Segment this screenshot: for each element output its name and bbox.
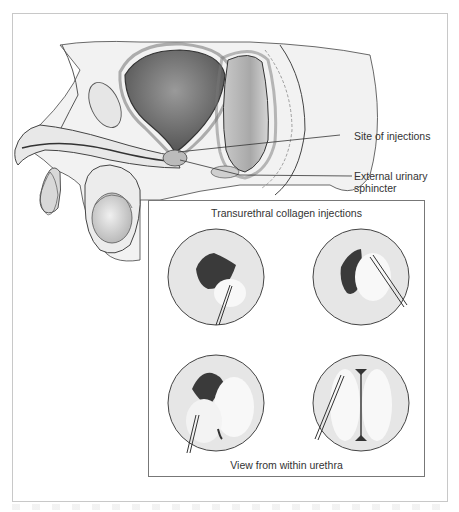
urethra-view-3 [166,353,266,453]
inset-title: Transurethral collagen injections [149,207,424,219]
label-external-urinary-sphincter: External urinary sphincter [354,170,428,194]
inset-panel: Transurethral collagen injections [148,200,425,477]
label-external-urinary-line2: sphincter [354,182,428,194]
label-site-of-injections: Site of injections [354,130,430,142]
urethra-view-2 [311,227,411,327]
urethra-view-1 [166,227,266,327]
cutoff-caption-text [12,504,448,510]
label-external-urinary-line1: External urinary [354,170,428,182]
inset-caption: View from within urethra [149,459,424,471]
urethra-view-4 [311,353,411,453]
